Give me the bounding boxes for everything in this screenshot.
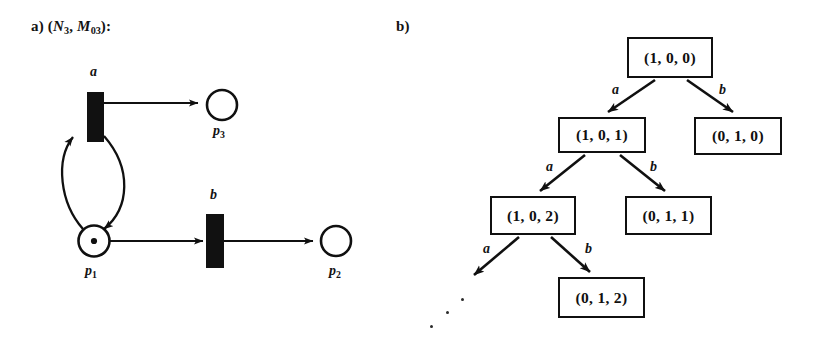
ellipsis-dot-2 [446, 311, 449, 314]
tree-node-root[interactable]: (1, 0, 0) [627, 37, 713, 78]
tree-edge-label-n3-open: a [483, 241, 490, 257]
tree-edge-n0-n2 [687, 80, 733, 112]
tree-node-012[interactable]: (0, 1, 2) [558, 277, 645, 318]
tree-edge-label-n0-n2: b [719, 82, 726, 98]
tree-edge-label-n1-n3: a [546, 159, 553, 175]
figure-canvas: a) (N3, M03): b) [0, 0, 824, 352]
tree-edge-label-n1-n4: b [650, 159, 657, 175]
tree-node-101[interactable]: (1, 0, 1) [558, 117, 646, 153]
tree-node-102[interactable]: (1, 0, 2) [490, 196, 576, 235]
tree-node-010[interactable]: (0, 1, 0) [694, 117, 782, 155]
tree-edge-label-n0-n1: a [612, 82, 619, 98]
tree-edge-n3-open [474, 237, 519, 275]
ellipsis-dot-1 [461, 298, 464, 301]
tree-node-011[interactable]: (0, 1, 1) [625, 196, 712, 235]
tree-edge-label-n3-n5: b [585, 241, 592, 257]
ellipsis-dot-3 [430, 325, 433, 328]
tree-edge-n1-n4 [620, 155, 665, 191]
